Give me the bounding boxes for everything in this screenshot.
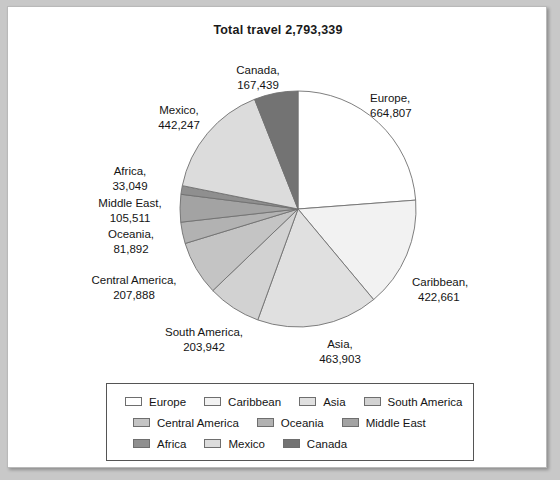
pie-label-central-america-value: 207,888 <box>64 288 204 303</box>
legend-item-label: Central America <box>157 417 239 429</box>
pie-label-caribbean-value: 422,661 <box>412 290 532 305</box>
legend-item-central-america[interactable]: Central America <box>133 417 239 429</box>
pie-label-mexico-name: Mexico, <box>124 103 234 118</box>
legend-item-mexico[interactable]: Mexico <box>204 438 264 450</box>
legend-row: EuropeCaribbeanAsiaSouth America <box>117 391 463 412</box>
legend-swatch-icon <box>204 397 221 406</box>
pie-label-europe: Europe, 664,807 <box>370 91 490 120</box>
pie-label-middle-east-value: 105,511 <box>70 211 190 226</box>
pie-label-south-america-value: 203,942 <box>134 340 274 355</box>
pie-label-south-america: South America, 203,942 <box>134 325 274 354</box>
pie-label-oceania-value: 81,892 <box>76 242 186 257</box>
pie-label-mexico-value: 442,247 <box>124 118 234 133</box>
legend-item-caribbean[interactable]: Caribbean <box>204 396 281 408</box>
legend-item-label: Oceania <box>281 417 324 429</box>
pie-label-africa: Africa, 33,049 <box>80 164 180 193</box>
pie-label-europe-value: 664,807 <box>370 106 490 121</box>
legend-swatch-icon <box>364 397 381 406</box>
pie-label-asia-name: Asia, <box>290 337 390 352</box>
legend-swatch-icon <box>204 439 221 448</box>
legend-item-africa[interactable]: Africa <box>133 438 186 450</box>
legend-swatch-icon <box>133 418 150 427</box>
pie-label-africa-name: Africa, <box>80 164 180 179</box>
legend-swatch-icon <box>257 418 274 427</box>
pie-label-africa-value: 33,049 <box>80 179 180 194</box>
legend-swatch-icon <box>125 397 142 406</box>
pie-label-middle-east-name: Middle East, <box>70 196 190 211</box>
pie-label-oceania: Oceania, 81,892 <box>76 227 186 256</box>
legend-item-label: Asia <box>323 396 345 408</box>
legend-swatch-icon <box>342 418 359 427</box>
legend-item-label: Europe <box>149 396 186 408</box>
legend-item-oceania[interactable]: Oceania <box>257 417 324 429</box>
legend-item-label: Africa <box>157 438 186 450</box>
pie-label-canada-name: Canada, <box>206 63 310 78</box>
chart-card: Total travel 2,793,339 Canada, 167,439 E… <box>7 6 547 468</box>
legend-item-europe[interactable]: Europe <box>125 396 186 408</box>
legend-swatch-icon <box>283 439 300 448</box>
pie-label-caribbean-name: Caribbean, <box>412 275 532 290</box>
legend-item-canada[interactable]: Canada <box>283 438 347 450</box>
pie-label-asia-value: 463,903 <box>290 352 390 367</box>
pie-label-canada: Canada, 167,439 <box>206 63 310 92</box>
legend-item-label: Canada <box>307 438 347 450</box>
legend-item-asia[interactable]: Asia <box>299 396 345 408</box>
legend: EuropeCaribbeanAsiaSouth AmericaCentral … <box>106 383 474 461</box>
legend-item-middle-east[interactable]: Middle East <box>342 417 426 429</box>
legend-row: Central AmericaOceaniaMiddle East <box>117 412 463 433</box>
legend-swatch-icon <box>133 439 150 448</box>
pie-label-canada-value: 167,439 <box>206 78 310 93</box>
legend-swatch-icon <box>299 397 316 406</box>
pie-label-central-america: Central America, 207,888 <box>64 273 204 302</box>
pie-label-central-america-name: Central America, <box>64 273 204 288</box>
pie-label-asia: Asia, 463,903 <box>290 337 390 366</box>
pie-label-caribbean: Caribbean, 422,661 <box>412 275 532 304</box>
pie-label-mexico: Mexico, 442,247 <box>124 103 234 132</box>
legend-item-label: South America <box>388 396 463 408</box>
pie-label-oceania-name: Oceania, <box>76 227 186 242</box>
legend-item-south-america[interactable]: South America <box>364 396 463 408</box>
legend-item-label: Mexico <box>228 438 264 450</box>
pie-label-europe-name: Europe, <box>370 91 490 106</box>
legend-item-label: Caribbean <box>228 396 281 408</box>
legend-item-label: Middle East <box>366 417 426 429</box>
plot-area: Canada, 167,439 Europe, 664,807 Caribbea… <box>8 7 548 377</box>
pie-label-south-america-name: South America, <box>134 325 274 340</box>
legend-row: AfricaMexicoCanada <box>117 433 463 454</box>
pie-label-middle-east: Middle East, 105,511 <box>70 196 190 225</box>
